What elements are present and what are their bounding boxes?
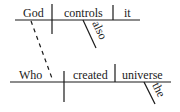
relative-subject: Who bbox=[19, 68, 42, 82]
main-subject: God bbox=[23, 6, 44, 20]
sentence-diagram: God controls it also Who created univers… bbox=[0, 0, 180, 112]
main-object: it bbox=[124, 6, 131, 20]
object-modifier: the bbox=[149, 80, 168, 99]
relative-clause: Who created universe the bbox=[10, 64, 171, 104]
main-verb: controls bbox=[64, 6, 103, 20]
verb-modifier: also bbox=[89, 18, 110, 41]
relative-object: universe bbox=[122, 68, 163, 82]
relative-verb: created bbox=[73, 68, 108, 82]
main-clause: God controls it also bbox=[15, 4, 140, 48]
